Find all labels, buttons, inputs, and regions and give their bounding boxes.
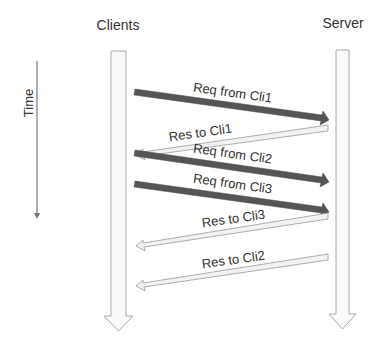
participant-server-label: Server bbox=[322, 15, 364, 31]
sequence-diagram: Clients Server Time Req from Cli1 Res to… bbox=[0, 0, 376, 346]
message-res-cli3: Res to Cli3 bbox=[136, 207, 328, 251]
participant-clients-label: Clients bbox=[97, 17, 140, 33]
message-req-cli1: Req from Cli1 bbox=[134, 80, 329, 125]
time-axis: Time bbox=[21, 61, 37, 216]
time-axis-label: Time bbox=[21, 89, 36, 117]
server-lifeline bbox=[329, 50, 356, 329]
clients-lifeline bbox=[104, 51, 133, 331]
message-res-cli2: Res to Cli2 bbox=[136, 248, 328, 291]
